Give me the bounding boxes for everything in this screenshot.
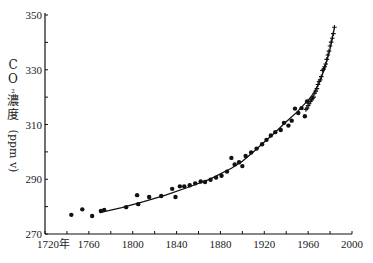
plus-marker xyxy=(331,31,336,36)
data-point xyxy=(249,150,253,154)
x-tick-label: 1800 xyxy=(122,238,145,250)
x-tick-label: 1840 xyxy=(166,238,189,250)
data-point xyxy=(229,156,233,160)
y-axis-label-char: C xyxy=(8,58,17,72)
data-point xyxy=(269,133,273,137)
data-point xyxy=(124,205,128,209)
data-point xyxy=(208,178,212,182)
ice-core-data-points xyxy=(69,99,309,218)
data-point xyxy=(282,121,286,125)
axis-ticks: 2702903103303501720年17601800184018801920… xyxy=(26,9,364,250)
data-point xyxy=(273,130,277,134)
y-tick-label: 290 xyxy=(26,173,43,185)
data-point xyxy=(237,160,241,164)
data-point xyxy=(260,142,264,146)
y-axis-label-char: ₂ xyxy=(11,86,15,94)
data-point xyxy=(293,106,297,110)
y-axis-label: C O ₂ 濃 度 (ppm v) xyxy=(4,58,22,198)
data-point xyxy=(193,181,197,185)
data-point xyxy=(232,162,236,166)
data-point xyxy=(198,179,202,183)
x-tick-label: 1880 xyxy=(209,238,232,250)
data-point xyxy=(173,195,177,199)
data-point xyxy=(240,164,244,168)
fitted-curve xyxy=(100,27,335,212)
data-point xyxy=(90,214,94,218)
y-axis-label-char: 度 xyxy=(7,108,19,122)
data-point xyxy=(203,180,207,184)
data-point xyxy=(264,138,268,142)
data-point xyxy=(296,111,300,115)
data-point xyxy=(170,187,174,191)
data-point xyxy=(69,213,73,217)
x-tick-label: 1720年 xyxy=(37,237,70,250)
y-axis-label-unit: (ppm v) xyxy=(6,130,20,173)
data-point xyxy=(279,128,283,132)
data-point xyxy=(299,106,303,110)
y-tick-label: 330 xyxy=(26,64,43,76)
data-point xyxy=(147,195,151,199)
x-tick-label: 1760 xyxy=(78,238,101,250)
y-axis-label-char: 濃 xyxy=(7,94,19,108)
data-point xyxy=(286,123,290,127)
data-point xyxy=(225,169,229,173)
x-tick-label: 2000 xyxy=(341,238,364,250)
y-tick-label: 350 xyxy=(26,9,43,21)
data-point xyxy=(303,114,307,118)
data-point xyxy=(136,202,140,206)
data-point xyxy=(182,184,186,188)
co2-concentration-chart: 2702903103303501720年17601800184018801920… xyxy=(0,0,373,263)
plus-marker xyxy=(324,57,329,62)
data-point xyxy=(102,208,106,212)
x-tick-label: 1920 xyxy=(253,238,276,250)
data-point xyxy=(219,173,223,177)
axes xyxy=(45,13,352,234)
data-point xyxy=(135,193,139,197)
data-point xyxy=(243,154,247,158)
data-point xyxy=(159,194,163,198)
data-point xyxy=(214,175,218,179)
y-tick-label: 310 xyxy=(26,119,43,131)
x-tick-label: 1960 xyxy=(297,238,320,250)
data-point xyxy=(80,207,84,211)
fitted-curve-path xyxy=(100,27,335,212)
data-point xyxy=(254,146,258,150)
data-point xyxy=(188,183,192,187)
y-axis-label-char: O xyxy=(8,72,18,86)
plus-marker xyxy=(332,25,337,30)
data-point xyxy=(178,184,182,188)
data-point xyxy=(289,118,293,122)
